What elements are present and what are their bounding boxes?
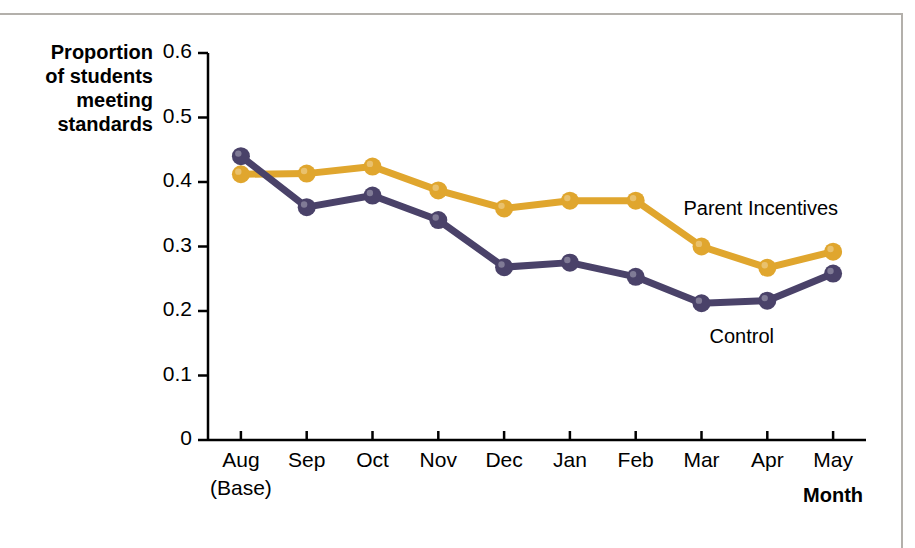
data-point-highlight	[367, 190, 373, 196]
data-point	[495, 258, 513, 276]
data-point-highlight	[301, 168, 307, 174]
chart-axes	[198, 53, 866, 440]
data-point	[758, 259, 776, 277]
chart-series-group	[232, 147, 842, 312]
data-point	[824, 265, 842, 283]
x-axis-title: Month	[773, 484, 893, 507]
data-point	[364, 158, 382, 176]
y-axis-tick-label: 0.4	[140, 168, 192, 192]
data-point-highlight	[498, 261, 504, 267]
data-point-highlight	[367, 161, 373, 167]
data-point-highlight	[696, 241, 702, 247]
data-point	[758, 292, 776, 310]
y-axis-tick-label: 0	[140, 426, 192, 450]
series-label-control: Control	[710, 325, 774, 348]
y-axis-title: Proportion of students meeting standards	[8, 40, 153, 136]
data-point	[298, 165, 316, 183]
data-point-highlight	[564, 195, 570, 201]
data-point-highlight	[762, 295, 768, 301]
x-axis-tick-sublabel: (Base)	[199, 476, 283, 500]
y-axis-tick-label: 0.1	[140, 362, 192, 386]
y-axis-title-line-4: standards	[8, 112, 153, 136]
data-point-highlight	[498, 203, 504, 209]
data-point-highlight	[235, 150, 241, 156]
y-axis-tick-label: 0.3	[140, 233, 192, 257]
data-point-highlight	[827, 268, 833, 274]
data-point	[429, 181, 447, 199]
data-point-highlight	[301, 201, 307, 207]
y-axis-tick-label: 0.2	[140, 297, 192, 321]
data-point-highlight	[630, 195, 636, 201]
line-chart: Proportion of students meeting standards…	[0, 0, 915, 548]
y-axis-title-line-3: meeting	[8, 88, 153, 112]
data-point	[693, 238, 711, 256]
chart-page: Proportion of students meeting standards…	[0, 0, 915, 548]
data-point-highlight	[827, 246, 833, 252]
data-point	[495, 199, 513, 217]
data-point	[627, 192, 645, 210]
data-point	[364, 187, 382, 205]
data-point-highlight	[433, 185, 439, 191]
data-point	[232, 165, 250, 183]
data-point	[693, 294, 711, 312]
series-label-parent-incentives: Parent Incentives	[684, 197, 839, 220]
data-point	[627, 268, 645, 286]
data-point-highlight	[564, 257, 570, 263]
data-point	[561, 254, 579, 272]
data-point	[232, 147, 250, 165]
data-point-highlight	[235, 168, 241, 174]
data-point	[561, 192, 579, 210]
data-point	[429, 211, 447, 229]
data-point-highlight	[762, 262, 768, 268]
x-axis-tick-label: May	[791, 448, 875, 472]
data-point-highlight	[433, 214, 439, 220]
series-line	[241, 156, 833, 303]
data-point	[824, 243, 842, 261]
data-point-highlight	[696, 297, 702, 303]
y-axis-tick-label: 0.5	[140, 104, 192, 128]
y-axis-tick-label: 0.6	[140, 39, 192, 63]
y-axis-title-line-1: Proportion	[8, 40, 153, 64]
y-axis-title-line-2: of students	[8, 64, 153, 88]
data-point	[298, 198, 316, 216]
data-point-highlight	[630, 271, 636, 277]
